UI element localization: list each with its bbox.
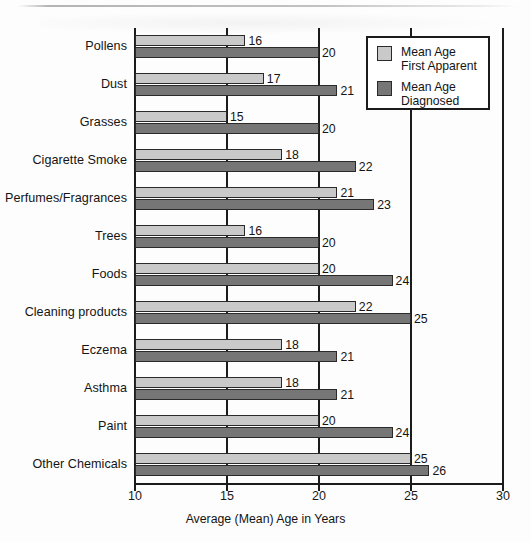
legend-label-diagnosed: Mean AgeDiagnosed	[401, 80, 459, 108]
bar-value-label: 18	[285, 375, 299, 389]
bar-value-label: 22	[359, 159, 373, 173]
bar-first-apparent: 18	[135, 149, 282, 160]
category-label: Eczema	[81, 343, 127, 357]
x-tick-label-20: 20	[312, 489, 326, 503]
bar-value-label: 16	[248, 33, 262, 47]
x-tick-label-10: 10	[128, 489, 142, 503]
bar-diagnosed: 21	[135, 85, 337, 96]
x-axis-title: Average (Mean) Age in Years	[0, 512, 531, 526]
bar-first-apparent: 22	[135, 301, 356, 312]
bar-value-label: 15	[230, 109, 244, 123]
bar-value-label: 18	[285, 147, 299, 161]
bar-diagnosed: 20	[135, 47, 319, 58]
bar-group: Other Chemicals2526	[135, 446, 503, 484]
bar-group: Asthma1821	[135, 370, 503, 408]
bar-group: Cigarette Smoke1822	[135, 142, 503, 180]
legend-swatch-dark-icon	[377, 81, 392, 96]
bar-value-label: 21	[340, 185, 354, 199]
bar-group: Trees1620	[135, 218, 503, 256]
bar-value-label: 23	[377, 197, 391, 211]
bar-diagnosed: 20	[135, 237, 319, 248]
category-label: Paint	[98, 419, 127, 433]
bar-diagnosed: 24	[135, 275, 393, 286]
bar-diagnosed: 21	[135, 389, 337, 400]
bar-group: Paint2024	[135, 408, 503, 446]
category-label: Other Chemicals	[32, 457, 127, 471]
legend-swatch-light-icon	[377, 46, 392, 61]
bar-value-label: 24	[396, 425, 410, 439]
bar-diagnosed: 24	[135, 427, 393, 438]
bar-first-apparent: 15	[135, 111, 227, 122]
bar-diagnosed: 25	[135, 313, 411, 324]
chart-page: Pollens1620Dust1721Grasses1520Cigarette …	[0, 0, 531, 542]
category-label: Dust	[101, 77, 127, 91]
bar-diagnosed: 23	[135, 199, 374, 210]
legend-label-first-apparent: Mean AgeFirst Apparent	[401, 45, 477, 73]
category-label: Cleaning products	[25, 305, 127, 319]
category-label: Asthma	[84, 381, 127, 395]
bar-diagnosed: 21	[135, 351, 337, 362]
x-tick-label-25: 25	[404, 489, 418, 503]
scan-artifact-line	[18, 5, 518, 7]
bar-first-apparent: 25	[135, 453, 411, 464]
bar-value-label: 25	[414, 451, 428, 465]
bar-first-apparent: 21	[135, 187, 337, 198]
bar-value-label: 20	[322, 45, 336, 59]
bar-value-label: 21	[340, 83, 354, 97]
category-label: Grasses	[80, 115, 127, 129]
bar-group: Cleaning products2225	[135, 294, 503, 332]
category-label: Perfumes/Fragrances	[5, 191, 127, 205]
legend-item-diagnosed: Mean AgeDiagnosed	[377, 80, 488, 108]
bar-diagnosed: 22	[135, 161, 356, 172]
category-label: Foods	[92, 267, 127, 281]
bar-value-label: 20	[322, 261, 336, 275]
bar-first-apparent: 16	[135, 225, 245, 236]
bar-value-label: 18	[285, 337, 299, 351]
bar-value-label: 25	[414, 311, 428, 325]
bar-group: Perfumes/Fragrances2123	[135, 180, 503, 218]
bar-value-label: 17	[267, 71, 281, 85]
bar-group: Foods2024	[135, 256, 503, 294]
x-tick-label-15: 15	[220, 489, 234, 503]
bar-diagnosed: 26	[135, 465, 429, 476]
bar-value-label: 26	[432, 463, 446, 477]
legend-item-first-apparent: Mean AgeFirst Apparent	[377, 45, 488, 73]
bar-value-label: 24	[396, 273, 410, 287]
bar-value-label: 21	[340, 349, 354, 363]
x-tick-label-30: 30	[496, 489, 510, 503]
category-label: Trees	[95, 229, 127, 243]
chart-legend: Mean AgeFirst Apparent Mean AgeDiagnosed	[366, 36, 490, 110]
bar-first-apparent: 20	[135, 415, 319, 426]
bar-value-label: 20	[322, 413, 336, 427]
bar-value-label: 16	[248, 223, 262, 237]
bar-first-apparent: 18	[135, 339, 282, 350]
category-label: Cigarette Smoke	[32, 153, 127, 167]
bar-value-label: 22	[359, 299, 373, 313]
category-label: Pollens	[85, 39, 127, 53]
bar-value-label: 20	[322, 235, 336, 249]
bar-diagnosed: 20	[135, 123, 319, 134]
bar-first-apparent: 20	[135, 263, 319, 274]
bar-group: Eczema1821	[135, 332, 503, 370]
bar-first-apparent: 18	[135, 377, 282, 388]
bar-value-label: 20	[322, 121, 336, 135]
bar-value-label: 21	[340, 387, 354, 401]
bar-first-apparent: 16	[135, 35, 245, 46]
bar-first-apparent: 17	[135, 73, 264, 84]
